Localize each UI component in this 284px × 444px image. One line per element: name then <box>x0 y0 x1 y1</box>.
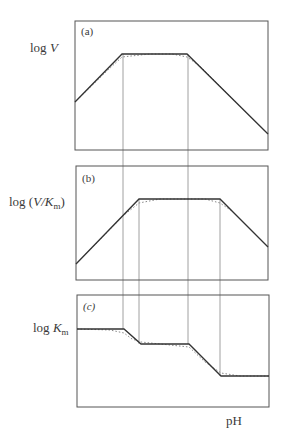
guide-lines <box>123 54 220 376</box>
ph-dependence-diagram <box>0 0 284 444</box>
panel-tag-a: (a) <box>81 25 93 37</box>
dotted-curve-c <box>77 329 269 376</box>
solid-curve-c <box>77 329 269 376</box>
y-label-log-km: log Km <box>33 320 69 337</box>
dotted-curve-b <box>76 199 268 264</box>
dotted-curve-a <box>75 54 268 134</box>
curves <box>75 54 269 376</box>
solid-curve-a <box>75 54 268 134</box>
panel-frame-b <box>76 166 268 280</box>
x-axis-label-ph: pH <box>226 413 242 429</box>
solid-curve-b <box>76 199 268 264</box>
panel-tag-b: (b) <box>82 172 95 184</box>
panel-frame-c <box>77 295 269 407</box>
panel-frame-a <box>75 21 268 150</box>
panel-frames <box>75 21 269 407</box>
panel-tag-c: (c) <box>83 300 95 312</box>
y-label-log-v: log V <box>30 40 58 56</box>
y-label-log-v-over-km: log (V/Km) <box>9 194 65 211</box>
